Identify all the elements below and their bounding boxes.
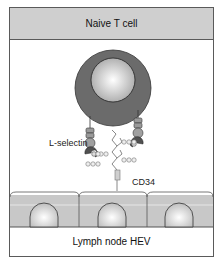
t-cell bbox=[75, 50, 151, 126]
endothelial-nucleus-2 bbox=[98, 203, 126, 227]
endothelial-nucleus-3 bbox=[165, 203, 193, 227]
hev-endothelium bbox=[10, 192, 213, 227]
t-cell-nucleus bbox=[91, 58, 135, 102]
cd34-label: CD34 bbox=[132, 177, 155, 187]
endothelial-nucleus-1 bbox=[30, 203, 58, 227]
l-selectin-label: L-selectin bbox=[49, 138, 88, 148]
diagram-illustration bbox=[0, 0, 223, 264]
